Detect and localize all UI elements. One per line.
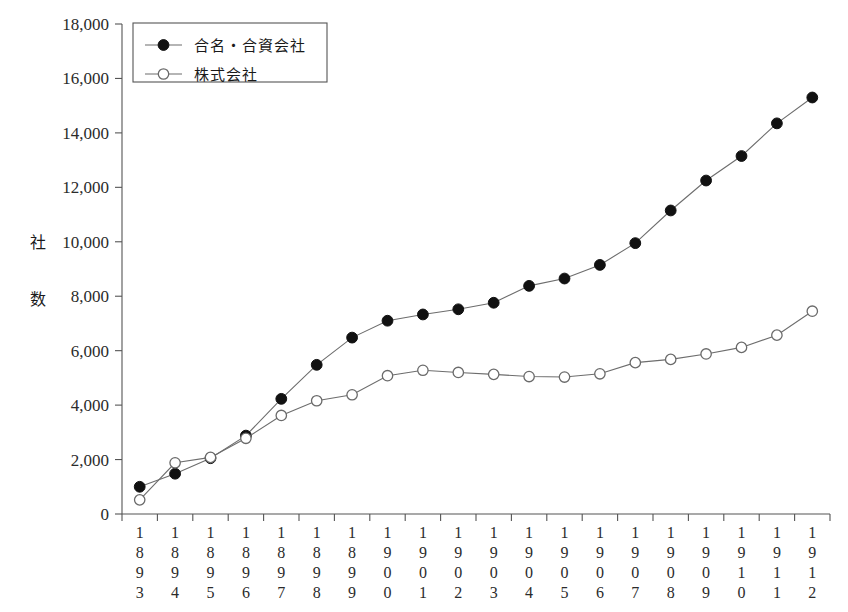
x-tick-digit: 9 [702,544,710,561]
x-tick-label: 1895 [207,524,215,601]
series-line [140,311,813,500]
x-tick-digit: 2 [454,584,462,601]
data-point-marker [170,458,180,468]
x-tick-digit: 8 [207,544,215,561]
x-tick-label: 1907 [631,524,639,601]
data-point-marker [276,393,287,404]
x-tick-digit: 8 [277,544,285,561]
data-point-marker [630,357,640,367]
data-point-marker [453,367,463,377]
x-tick-label: 1897 [277,524,285,601]
x-tick-digit: 7 [277,584,285,601]
x-tick-digit: 1 [419,584,427,601]
data-point-marker [736,151,747,162]
data-point-marker [666,354,676,364]
x-tick-label: 1906 [596,524,604,601]
x-tick-digit: 9 [313,564,321,581]
data-point-marker [772,330,782,340]
x-tick-digit: 1 [277,524,285,541]
x-tick-label: 1893 [136,524,144,601]
x-tick-digit: 5 [207,584,215,601]
x-tick-digit: 9 [702,584,710,601]
x-tick-digit: 8 [171,544,179,561]
x-tick-digit: 1 [738,524,746,541]
x-tick-digit: 9 [136,564,144,581]
data-point-marker [418,365,428,375]
data-point-marker [205,452,215,462]
y-tick-label: 4,000 [71,396,109,415]
x-tick-digit: 8 [313,544,321,561]
y-tick-label: 18,000 [62,15,109,34]
data-point-marker [312,396,322,406]
x-tick-digit: 1 [773,584,781,601]
x-tick-digit: 2 [808,584,816,601]
x-tick-digit: 0 [561,564,569,581]
data-point-marker [630,238,641,249]
x-tick-digit: 1 [525,524,533,541]
chart-series [134,92,817,492]
x-tick-digit: 0 [419,564,427,581]
x-tick-digit: 1 [171,524,179,541]
x-tick-digit: 1 [242,524,250,541]
x-tick-label: 1898 [313,524,321,601]
x-tick-digit: 1 [136,524,144,541]
x-tick-digit: 9 [171,564,179,581]
data-point-marker [807,92,818,103]
data-point-marker [134,481,145,492]
x-tick-digit: 9 [808,544,816,561]
data-point-marker [559,372,569,382]
x-tick-digit: 9 [738,544,746,561]
x-tick-label: 1904 [525,524,533,601]
data-point-marker [595,260,606,271]
data-point-marker [595,369,605,379]
x-tick-digit: 9 [384,544,392,561]
data-point-marker [807,306,817,316]
y-tick-label: 0 [101,505,110,524]
x-axis-ticks [122,514,830,521]
series-layer [134,92,817,505]
data-point-marker [276,410,286,420]
x-axis-tick-labels: 1893189418951896189718981899190019011902… [136,524,817,601]
chart-series [135,306,818,505]
x-tick-digit: 1 [313,524,321,541]
x-tick-digit: 1 [454,524,462,541]
x-tick-digit: 8 [242,544,250,561]
x-tick-digit: 8 [348,544,356,561]
chart-legend: 合名・合資会社株式会社 [133,23,327,84]
x-tick-digit: 8 [136,544,144,561]
y-axis-title-char: 社 [30,233,46,252]
data-point-marker [418,309,429,320]
x-tick-label: 1908 [667,524,675,601]
chart-container: 18,00016,00014,00012,00010,0008,0006,000… [0,0,848,612]
data-point-marker [665,205,676,216]
x-tick-digit: 1 [702,524,710,541]
legend-label: 株式会社 [194,66,258,84]
x-tick-digit: 1 [490,524,498,541]
y-tick-label: 14,000 [62,124,109,143]
y-axis-title: 社数 [30,233,46,309]
data-point-marker [382,315,393,326]
x-tick-digit: 4 [171,584,179,601]
x-tick-digit: 9 [348,584,356,601]
x-tick-digit: 0 [596,564,604,581]
data-point-marker [559,273,570,284]
x-tick-digit: 9 [454,544,462,561]
x-tick-digit: 8 [313,584,321,601]
x-tick-digit: 1 [738,564,746,581]
x-tick-label: 1909 [702,524,710,601]
x-tick-digit: 1 [348,524,356,541]
x-tick-label: 1903 [490,524,498,601]
x-tick-digit: 1 [808,564,816,581]
data-point-marker [524,371,534,381]
x-tick-digit: 0 [667,564,675,581]
x-tick-digit: 7 [631,584,639,601]
x-tick-digit: 5 [561,584,569,601]
x-tick-digit: 3 [136,584,144,601]
y-tick-label: 6,000 [71,342,109,361]
x-tick-label: 1902 [454,524,462,601]
x-tick-digit: 0 [384,564,392,581]
x-tick-digit: 6 [596,584,604,601]
x-tick-digit: 3 [490,584,498,601]
x-tick-digit: 9 [419,544,427,561]
data-point-marker [524,280,535,291]
